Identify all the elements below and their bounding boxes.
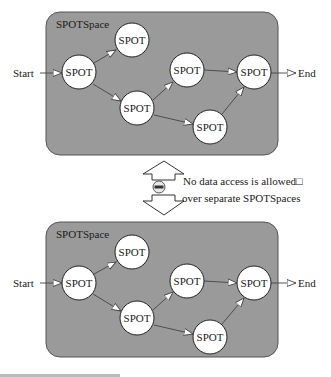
spot-node-label: SPOT [124,312,151,324]
spot-node-label: SPOT [174,275,201,287]
end-label: End [298,67,316,79]
spot-node: SPOT [193,320,227,354]
spot-node: SPOT [170,264,204,298]
spot-node-label: SPOT [197,121,224,133]
spot-node-label: SPOT [66,66,93,78]
spotspace-top: SPOTSpace Start End SPOT SPOT SPOT [13,12,316,155]
start-label: Start [13,277,34,289]
spotspace-diagram: SPOTSpace Start End SPOT SPOT SPOT [0,0,331,377]
spot-node-label: SPOT [241,66,268,78]
spot-node: SPOT [115,23,149,57]
up-arrow-icon [143,161,184,180]
no-entry-icon [153,181,165,193]
spotspace-label: SPOTSpace [56,228,109,240]
separation-note-line1: No data access is allowed□ [183,175,303,187]
spot-node: SPOT [62,55,96,89]
spot-node: SPOT [170,53,204,87]
spot-node-label: SPOT [241,277,268,289]
spot-node-label: SPOT [119,34,146,46]
spot-node-label: SPOT [124,102,151,114]
spot-node: SPOT [237,266,271,300]
separator: No data access is allowed□ over separate… [143,161,303,215]
spot-node: SPOT [193,110,227,144]
spot-node-label: SPOT [119,246,146,258]
end-label: End [298,277,316,289]
spot-node: SPOT [62,266,96,300]
spot-node-label: SPOT [66,277,93,289]
spot-node: SPOT [115,235,149,269]
spotspace-label: SPOTSpace [56,18,109,30]
separation-note-line2: over separate SPOTSpaces [182,192,301,204]
spot-node: SPOT [237,55,271,89]
spot-node: SPOT [120,301,154,335]
down-arrow-icon [143,195,184,215]
spot-node: SPOT [120,91,154,125]
spot-node-label: SPOT [197,331,224,343]
start-label: Start [13,67,34,79]
spot-node-label: SPOT [174,64,201,76]
spotspace-bottom: SPOTSpace Start End SPOT SPOT SPOT SP [13,222,316,357]
